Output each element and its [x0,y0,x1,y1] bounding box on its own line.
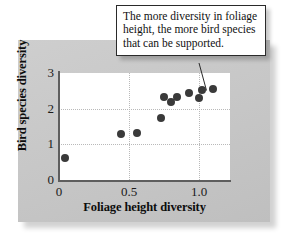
y-axis-tick-label: 1 [48,136,55,152]
data-point [198,86,206,94]
gridline-vertical [129,73,130,180]
x-axis-tick-label: 0 [56,184,63,200]
data-point [185,89,193,97]
y-axis-tick-label: 3 [48,65,55,81]
plot-area [59,73,230,180]
data-point [173,93,181,101]
x-axis-title: Foliage height diversity [59,200,230,215]
data-point [133,129,141,137]
y-axis-title: Bird species diversity [15,36,30,156]
data-point [209,85,217,93]
callout-text: The more diversity in foliage height, th… [123,10,259,50]
x-axis-tick-label: 1.0 [191,184,207,200]
x-axis-tick-label: 0.5 [121,184,137,200]
y-axis-spine [58,71,60,182]
x-axis-spine [58,180,231,182]
gridline-horizontal [59,144,230,145]
y-axis-tick-label: 2 [48,101,55,117]
data-point [157,114,165,122]
figure-container: 0123 00.51.0 Bird species diversity Foli… [0,0,289,237]
gridline-horizontal [59,109,230,110]
data-point [117,130,125,138]
plot-inner [59,73,230,180]
data-point [195,94,203,102]
data-point [61,154,69,162]
callout-box: The more diversity in foliage height, th… [116,5,266,56]
